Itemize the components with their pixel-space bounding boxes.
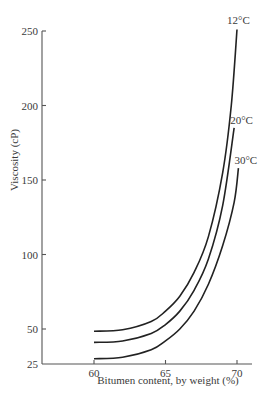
y-tick-label: 200	[22, 100, 39, 112]
y-tick-label: 250	[22, 25, 39, 37]
y-tick-label: 50	[27, 323, 39, 335]
curve-label: 12°C	[227, 14, 250, 26]
tick-marks: 2550100150200250606570	[22, 25, 244, 379]
curve-20c	[94, 128, 234, 343]
data-curves	[94, 30, 238, 359]
curve-12c	[94, 30, 237, 332]
curve-label: 20°C	[230, 114, 253, 126]
axes	[42, 31, 252, 364]
y-axis-label: Viscosity (cP)	[8, 129, 21, 191]
curve-label: 30°C	[234, 154, 257, 166]
y-tick-label: 100	[22, 249, 39, 261]
y-tick-label: 150	[22, 174, 39, 186]
x-axis-label: Bitumen content, by weight (%)	[97, 374, 239, 387]
y-tick-label: 25	[27, 358, 39, 370]
viscosity-chart: 2550100150200250606570 12°C20°C30°C Bitu…	[0, 0, 273, 410]
